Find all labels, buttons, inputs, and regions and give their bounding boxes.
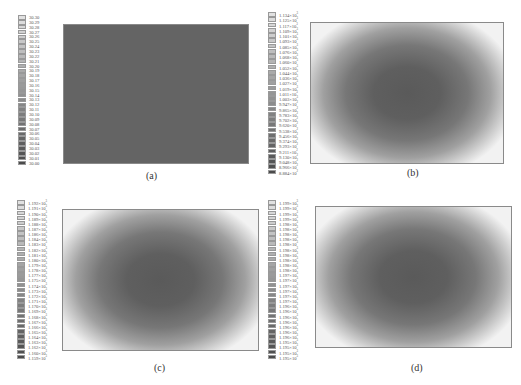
legend-swatch (268, 107, 276, 112)
plot-a (63, 24, 249, 164)
legend-swatch (268, 80, 276, 85)
legend-swatch (268, 252, 276, 257)
legend-swatch (268, 319, 276, 324)
legend-swatch (268, 154, 276, 159)
legend-swatch (17, 252, 25, 257)
legend-swatch (268, 247, 276, 252)
legend-swatch (268, 49, 276, 54)
legend-swatch (17, 298, 25, 303)
legend-swatch (17, 205, 25, 210)
legend-swatch (268, 23, 276, 28)
legend-entry: 1.195×103 (268, 355, 298, 360)
legend-swatch (268, 272, 276, 277)
legend-swatch (268, 65, 276, 70)
caption-c: (c) (154, 362, 165, 373)
legend-swatch (17, 319, 25, 324)
legend-swatch (17, 339, 25, 344)
legend-swatch (268, 96, 276, 101)
legend-swatch (268, 221, 276, 226)
legend-swatch (268, 205, 276, 210)
plot-c (62, 209, 259, 351)
legend-swatch (17, 293, 25, 298)
legend-swatch (268, 211, 276, 216)
legend-swatch (268, 12, 276, 17)
legend-swatch (268, 59, 276, 64)
plot-b (310, 22, 504, 164)
legend-swatch (268, 143, 276, 148)
legend-swatch (268, 164, 276, 169)
legend-swatch (268, 133, 276, 138)
legend-swatch (17, 288, 25, 293)
legend-swatch (268, 236, 276, 241)
legend-swatch (268, 308, 276, 313)
legend-swatch (17, 262, 25, 267)
legend-swatch (17, 226, 25, 231)
legend-swatch (268, 324, 276, 329)
legend-swatch (268, 117, 276, 122)
legend-swatch (268, 283, 276, 288)
legend-entry: 1.159×103 (17, 355, 47, 360)
caption-b: (b) (407, 167, 419, 178)
legend-swatch (17, 267, 25, 272)
legend-swatch (18, 161, 26, 166)
legend-swatch (268, 267, 276, 272)
legend-swatch (17, 303, 25, 308)
legend-swatch (17, 324, 25, 329)
legend-swatch (268, 170, 276, 175)
legend-swatch (17, 355, 25, 360)
legend-tick-label: 1.159×103 (28, 354, 47, 361)
legend-swatch (268, 314, 276, 319)
legend-swatch (268, 128, 276, 133)
legend-swatch (268, 28, 276, 33)
legend-swatch (268, 226, 276, 231)
legend-swatch (268, 257, 276, 262)
legend-swatch (268, 33, 276, 38)
legend-swatch (17, 200, 25, 205)
legend-entry: 30.00 (18, 161, 39, 166)
legend-swatch (268, 298, 276, 303)
legend-swatch (17, 308, 25, 313)
legend-swatch (268, 339, 276, 344)
legend-swatch (268, 17, 276, 22)
legend-swatch (268, 344, 276, 349)
legend-tick-label: 8.884×102 (279, 169, 298, 176)
legend-swatch (17, 241, 25, 246)
legend-swatch (268, 70, 276, 75)
legend-swatch (268, 303, 276, 308)
legend-swatch (268, 200, 276, 205)
legend-swatch (17, 247, 25, 252)
legend-swatch (268, 241, 276, 246)
legend-swatch (268, 334, 276, 339)
legend-tick-label: 30.00 (29, 161, 39, 166)
legend-entry: 8.884×102 (268, 170, 298, 175)
legend-swatch (17, 236, 25, 241)
legend-swatch (268, 122, 276, 127)
legend-swatch (17, 350, 25, 355)
plot-d (315, 206, 512, 348)
legend-swatch (268, 277, 276, 282)
legend-swatch (268, 216, 276, 221)
legend-swatch (17, 344, 25, 349)
legend-swatch (268, 86, 276, 91)
legend-swatch (268, 75, 276, 80)
legend-swatch (17, 211, 25, 216)
legend-swatch (17, 257, 25, 262)
legend-swatch (268, 350, 276, 355)
legend-swatch (17, 277, 25, 282)
legend-swatch (268, 112, 276, 117)
legend-swatch (17, 272, 25, 277)
legend-tick-label: 1.195×103 (279, 354, 298, 361)
caption-a: (a) (146, 170, 157, 181)
caption-d: (d) (411, 362, 423, 373)
legend-swatch (268, 159, 276, 164)
legend-swatch (268, 38, 276, 43)
legend-swatch (268, 231, 276, 236)
legend-swatch (17, 314, 25, 319)
legend-swatch (268, 44, 276, 49)
legend-swatch (268, 288, 276, 293)
legend-swatch (268, 138, 276, 143)
legend-swatch (17, 221, 25, 226)
legend-swatch (17, 329, 25, 334)
legend-swatch (268, 54, 276, 59)
legend-swatch (268, 293, 276, 298)
